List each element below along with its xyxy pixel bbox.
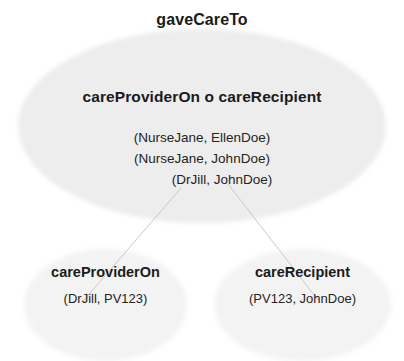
sub-set-title-careRecipient: careRecipient bbox=[214, 264, 391, 280]
main-set-tuple-list: (NurseJane, EllenDoe) (NurseJane, JohnDo… bbox=[0, 127, 404, 190]
tuple-item: (NurseJane, EllenDoe) bbox=[0, 127, 404, 148]
sub-set-title-careProviderOn: careProviderOn bbox=[24, 264, 187, 280]
sub-set-tuple-careRecipient: (PV123, JohnDoe) bbox=[214, 291, 391, 306]
connector-line-left bbox=[84, 188, 181, 300]
tuple-item: (NurseJane, JohnDoe) bbox=[0, 148, 404, 169]
composition-expression-label: careProviderOn o careRecipient bbox=[0, 88, 404, 106]
main-set-title: gaveCareTo bbox=[0, 11, 404, 29]
connector-line-right bbox=[228, 184, 318, 300]
sub-set-tuple-careProviderOn: (DrJill, PV123) bbox=[24, 291, 187, 306]
tuple-item: (DrJill, JohnDoe) bbox=[0, 169, 404, 190]
